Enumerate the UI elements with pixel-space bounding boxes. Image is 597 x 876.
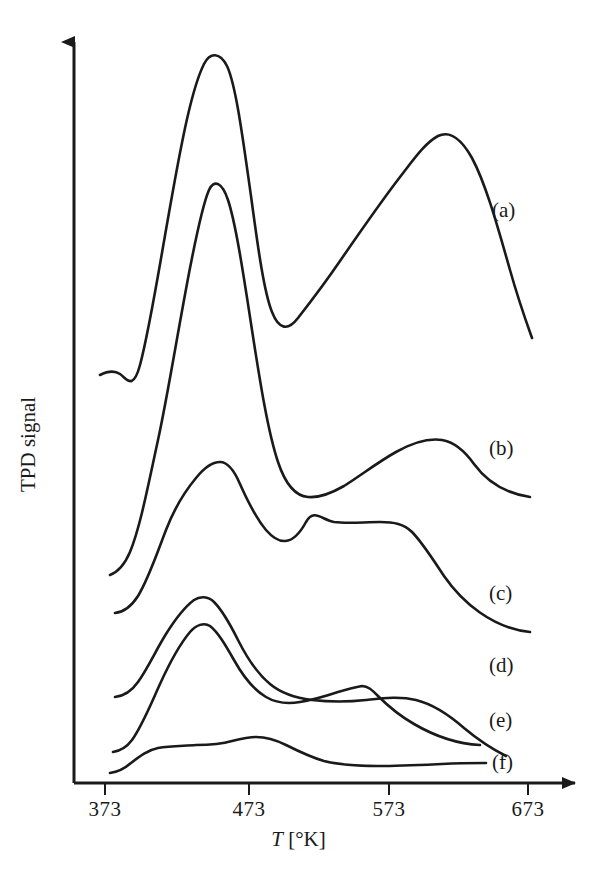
curves <box>100 55 532 773</box>
curve-label-b: (b) <box>489 436 514 461</box>
x-tick-label-473: 473 <box>214 797 284 822</box>
curve-f <box>110 737 486 773</box>
curve-a <box>100 55 532 381</box>
x-axis-title-variable: T <box>271 827 283 851</box>
x-axis-ticks <box>105 783 528 795</box>
curve-label-f: (f) <box>492 750 513 775</box>
curve-label-d: (d) <box>489 653 514 678</box>
curve-label-e: (e) <box>489 708 512 733</box>
tpd-figure: 373 473 573 673 (a) (b) (c) (d) (e) (f) … <box>0 0 597 876</box>
y-axis-title: TPD signal <box>16 355 41 535</box>
curve-e <box>113 624 480 752</box>
x-axis-title: T [°K] <box>0 827 597 852</box>
x-tick-label-573: 573 <box>354 797 424 822</box>
curve-label-a: (a) <box>492 198 515 223</box>
x-axis-title-unit: [°K] <box>288 827 326 851</box>
x-tick-label-673: 673 <box>493 797 563 822</box>
curve-c <box>115 462 530 632</box>
axes <box>74 42 575 795</box>
x-tick-label-373: 373 <box>70 797 140 822</box>
curve-label-c: (c) <box>489 581 512 606</box>
curve-d <box>115 597 506 756</box>
